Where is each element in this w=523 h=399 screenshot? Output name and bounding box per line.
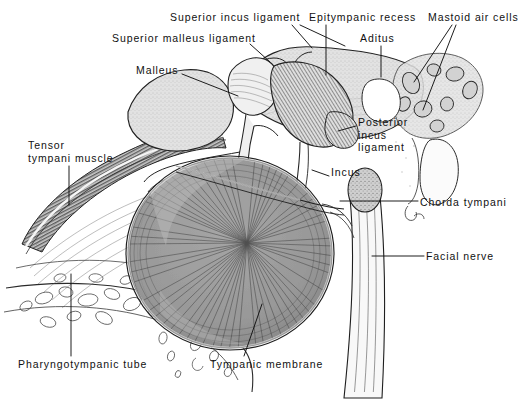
label-superior-malleus-ligament: Superior malleus ligament	[112, 32, 256, 45]
label-chorda-tympani: Chorda tympani	[420, 196, 507, 209]
label-tympanic-membrane: Tympanic membrane	[210, 358, 323, 371]
label-pharyngotympanic-tube: Pharyngotympanic tube	[18, 358, 147, 371]
label-posterior-incus-ligament: Posterior incus ligament	[358, 116, 408, 154]
label-malleus: Malleus	[136, 64, 178, 77]
label-aditus: Aditus	[360, 32, 395, 45]
label-tensor-tympani-muscle: Tensor tympani muscle	[28, 139, 114, 164]
label-superior-incus-ligament: Superior incus ligament	[170, 11, 300, 24]
label-facial-nerve: Facial nerve	[426, 250, 494, 263]
label-incus: Incus	[331, 166, 361, 179]
label-mastoid-air-cells: Mastoid air cells	[428, 11, 519, 24]
anatomical-illustration: Superior incus ligamentEpitympanic reces…	[0, 0, 523, 399]
label-epitympanic-recess: Epitympanic recess	[309, 11, 416, 24]
